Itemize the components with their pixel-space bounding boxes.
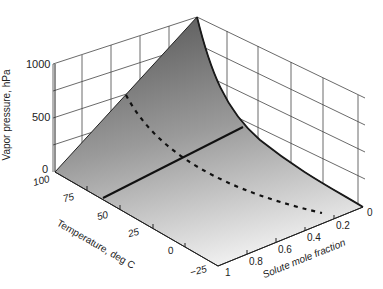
surface — [55, 17, 363, 266]
z-tick-500: 500 — [32, 112, 50, 123]
x-tick-0.8: 0.8 — [249, 257, 263, 267]
x-tick-1: 1 — [225, 268, 231, 278]
x-tick-0.6: 0.6 — [278, 245, 292, 255]
z-tick-1000: 1000 — [26, 59, 50, 70]
x-tick-0: 0 — [367, 208, 373, 218]
x-tick-0.4: 0.4 — [307, 233, 321, 243]
z-axis-label: Vapor pressure, hPa — [2, 70, 12, 161]
x-tick-0.2: 0.2 — [336, 221, 350, 231]
